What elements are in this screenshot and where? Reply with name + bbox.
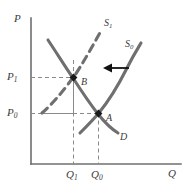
x-tick-q0-base: Q: [91, 168, 99, 180]
x-axis-label: Q: [168, 168, 176, 179]
x-tick-q1-sub: 1: [74, 173, 78, 182]
x-tick-label-q0: Q0: [91, 169, 103, 180]
y-axis-label: P: [14, 13, 21, 24]
y-tick-p0-sub: 0: [14, 111, 18, 120]
y-tick-p0-base: P: [7, 106, 14, 118]
x-tick-q0-sub: 0: [99, 173, 103, 182]
point-label-b: B: [81, 77, 87, 87]
curve-label-s0: S0: [125, 39, 133, 49]
y-tick-p1-base: P: [7, 70, 14, 82]
curve-label-d: D: [120, 132, 127, 142]
figure-canvas: [0, 0, 187, 188]
x-tick-q1-base: Q: [66, 168, 74, 180]
curve-label-s1: S1: [104, 18, 112, 28]
y-tick-label-p1: P1: [7, 71, 17, 82]
point-label-a: A: [106, 113, 112, 123]
shift-arrow-head: [103, 64, 112, 73]
axes-group: [31, 18, 181, 164]
curve-s0-sub: 0: [130, 43, 133, 50]
curve-s1-sub: 1: [109, 22, 112, 29]
x-tick-label-q1: Q1: [66, 169, 78, 180]
y-tick-label-p0: P0: [7, 107, 17, 118]
supply-demand-figure: P Q P1 P0 Q1 Q0 S1 S0 D B A: [0, 0, 187, 188]
y-tick-p1-sub: 1: [14, 75, 18, 84]
